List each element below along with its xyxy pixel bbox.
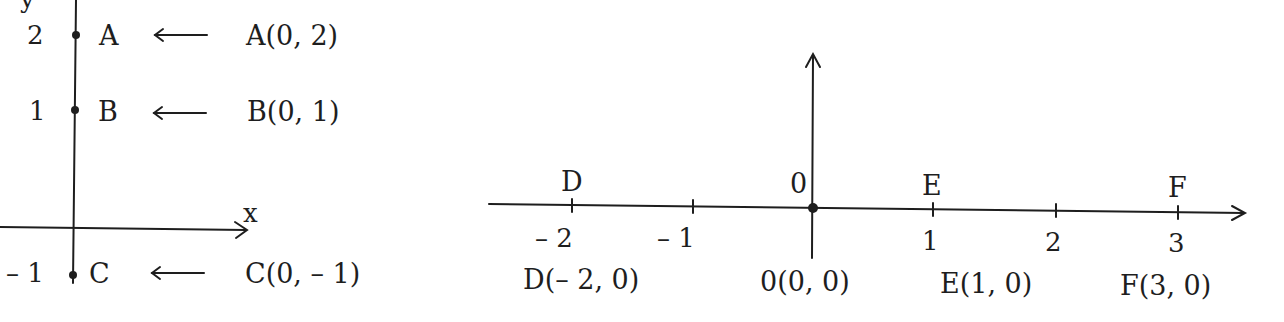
point-b-dot <box>71 106 79 114</box>
coords-a: A(0, 2) <box>246 22 338 49</box>
origin-label: 0 <box>790 170 807 197</box>
coords-b: B(0, 1) <box>247 98 339 125</box>
point-label-c: C <box>89 260 110 287</box>
coords-d: D(– 2, 0) <box>523 266 639 293</box>
coords-e: E(1, 0) <box>940 270 1032 297</box>
point-label-a: A <box>99 22 119 49</box>
point-label-b: B <box>98 98 118 125</box>
tick-label-2-r: 2 <box>1045 229 1062 255</box>
arrow-c-icon <box>152 267 204 279</box>
left-x-axis <box>0 227 246 230</box>
tick-label-1: 1 <box>29 98 46 124</box>
point-a-dot <box>72 31 80 39</box>
tick-label-neg2: – 2 <box>535 225 573 251</box>
arrow-b-icon <box>154 107 206 119</box>
tick-label-1-r: 1 <box>922 228 939 254</box>
origin-dot <box>808 203 818 213</box>
tick-label-3-r: 3 <box>1168 230 1185 256</box>
point-label-e: E <box>922 172 942 199</box>
point-label-d: D <box>561 168 583 195</box>
x-axis-label: x <box>243 200 258 226</box>
coords-c: C(0, – 1) <box>245 260 360 287</box>
axes-drawing <box>0 0 1284 322</box>
coords-origin: 0(0, 0) <box>760 268 850 295</box>
tick-label-2: 2 <box>27 22 44 48</box>
arrow-a-icon <box>155 29 207 41</box>
point-label-f: F <box>1168 174 1187 201</box>
left-y-axis <box>73 0 76 283</box>
point-c-dot <box>69 271 77 279</box>
right-y-axis <box>812 55 813 258</box>
tick-label-neg1: – 1 <box>6 260 44 286</box>
y-axis-label: y <box>20 0 35 12</box>
right-x-axis <box>489 204 1244 213</box>
coords-f: F(3, 0) <box>1120 272 1211 299</box>
tick-label-neg1-r: – 1 <box>657 225 695 251</box>
